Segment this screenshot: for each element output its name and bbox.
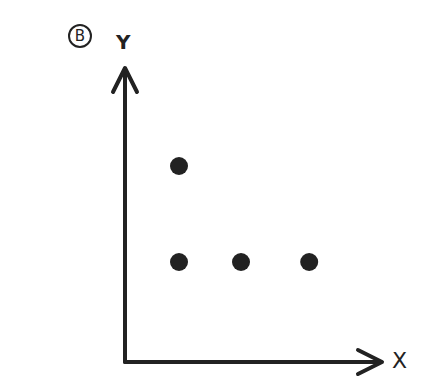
data-point bbox=[170, 157, 188, 175]
coordinate-plane bbox=[0, 0, 441, 382]
data-point bbox=[170, 253, 188, 271]
data-point bbox=[300, 253, 318, 271]
data-point bbox=[232, 253, 250, 271]
data-points bbox=[170, 157, 318, 271]
